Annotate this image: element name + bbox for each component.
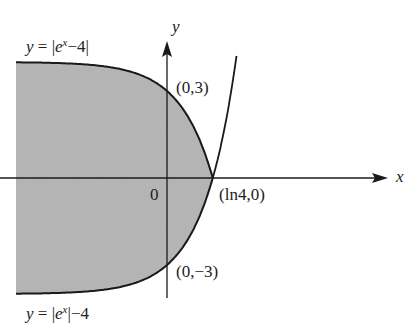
origin-label: 0 — [150, 186, 159, 203]
lower-curve-label-suffix: |−4 — [67, 304, 89, 323]
point-label-ln4-0: (ln4,0) — [219, 186, 265, 203]
point-label-0-3: (0,3) — [176, 79, 209, 96]
upper-curve-right-branch — [213, 56, 237, 178]
upper-curve-label-suffix: −4| — [67, 37, 89, 56]
point-label-0-neg3: (0,−3) — [176, 263, 218, 280]
lower-curve-label: y = |ex|−4 — [26, 305, 89, 322]
lower-curve-label-base: e — [55, 304, 63, 323]
upper-curve-label-base: e — [55, 37, 63, 56]
upper-curve-label: y = |ex−4| — [26, 38, 89, 55]
x-axis-label: x — [396, 168, 404, 185]
y-axis-label: y — [172, 18, 180, 35]
